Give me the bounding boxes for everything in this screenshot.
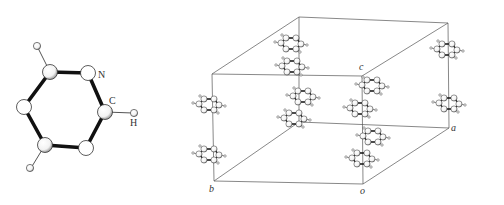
molecule — [355, 76, 389, 95]
hydrogen-atom — [130, 109, 137, 116]
molecule — [343, 99, 377, 118]
nitrogen-label: N — [98, 69, 105, 80]
molecule — [286, 87, 320, 106]
hydrogen-atom — [33, 42, 40, 49]
molecule — [192, 145, 226, 164]
axis-label-c: c — [359, 61, 364, 72]
molecule — [275, 57, 309, 76]
axis-label-b: b — [209, 183, 214, 194]
crystal-molecules — [192, 34, 466, 168]
origin-label: o — [360, 185, 365, 196]
molecule — [430, 40, 464, 59]
molecule — [356, 127, 390, 146]
carbon-atom — [38, 138, 53, 153]
axis-labels: c a b o — [209, 61, 456, 196]
carbon-atom — [17, 100, 32, 115]
molecule — [345, 149, 379, 168]
hydrogen-atom — [26, 164, 33, 171]
molecule — [274, 34, 308, 53]
carbon-atom — [98, 105, 113, 120]
unit-cell — [212, 17, 449, 184]
carbon-atom — [79, 141, 94, 156]
axis-label-a: a — [451, 122, 456, 133]
hydrogen-label: H — [130, 117, 137, 128]
carbon-label: C — [109, 95, 116, 106]
carbon-atom — [43, 65, 58, 80]
nitrogen-atom — [81, 66, 96, 81]
molecule — [192, 95, 226, 114]
diagram-canvas: N C H c a b o — [0, 0, 504, 205]
pyridine-molecule: N C H — [17, 42, 138, 171]
